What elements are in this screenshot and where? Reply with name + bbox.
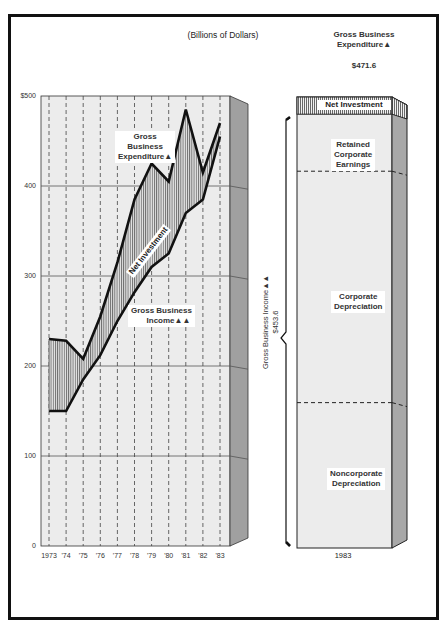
y-tick-label: 100 [10, 451, 36, 461]
right-top-value: $471.6 [344, 61, 384, 71]
y-tick-label: 400 [10, 181, 36, 191]
segment-retained: Retained Corporate Earnings [331, 139, 375, 171]
segment-noncorporate: Noncorporate Depreciation [327, 468, 385, 490]
segment-corporate: Corporate Depreciation [331, 291, 385, 313]
right-x-label: 1983 [328, 551, 358, 561]
right-top-label: Gross Business Expenditure▲ [324, 30, 404, 50]
segment-net-investment: Net Investment [317, 100, 391, 110]
y-tick-label: 0 [10, 541, 36, 551]
x-tick-label: '83 [208, 551, 232, 561]
expenditure-label: Gross Business Expenditure▲ [115, 131, 175, 163]
y-tick-label: 200 [10, 361, 36, 371]
chart-canvas [0, 0, 446, 629]
bracket-label: Gross Business Income▲▲ $453.6 [261, 267, 281, 377]
income-label: Gross Business Income▲▲ [128, 305, 195, 327]
y-tick-label: 300 [10, 271, 36, 281]
y-tick-label: $500 [10, 91, 36, 101]
